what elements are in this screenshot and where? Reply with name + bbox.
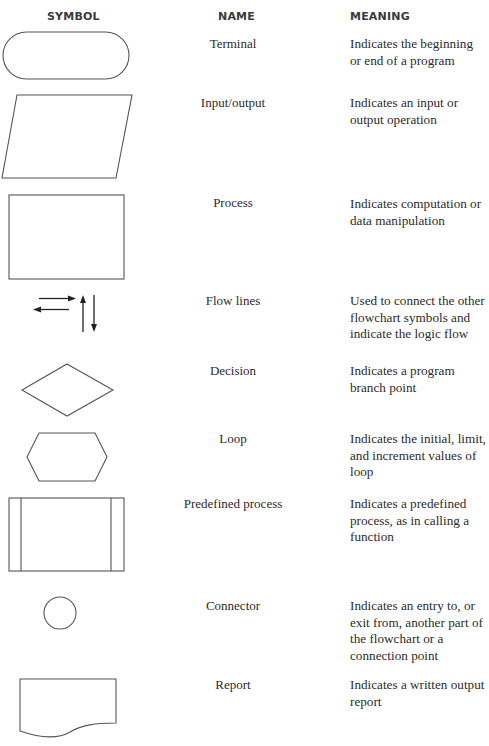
- symbol-meaning: Indicates computation or data manipulati…: [350, 196, 486, 229]
- symbol-meaning: Indicates an input or output operation: [350, 95, 486, 128]
- flow-lines-icon: [33, 295, 97, 332]
- symbol-meaning: Indicates an entry to, or exit from, ano…: [350, 598, 486, 664]
- symbol-name: Report: [143, 677, 323, 693]
- symbol-meaning: Indicates the initial, limit, and increm…: [350, 431, 486, 481]
- symbol-name: Connector: [143, 598, 323, 614]
- symbol-meaning: Indicates the beginning or end of a prog…: [350, 36, 486, 69]
- loop-icon: [27, 433, 107, 481]
- decision-icon: [22, 364, 113, 416]
- symbol-name: Input/output: [143, 95, 323, 111]
- symbol-meaning: Indicates a written output report: [350, 677, 486, 710]
- connector-icon: [44, 597, 76, 629]
- predefined-process-icon: [9, 498, 124, 571]
- symbol-name: Flow lines: [143, 293, 323, 309]
- symbol-meaning: Indicates a predefined process, as in ca…: [350, 496, 486, 546]
- report-icon: [20, 679, 116, 737]
- symbol-name: Predefined process: [143, 496, 323, 512]
- input-output-icon: [2, 95, 132, 178]
- symbol-name: Loop: [143, 431, 323, 447]
- terminal-icon: [3, 32, 129, 79]
- process-icon: [9, 195, 124, 279]
- symbol-name: Terminal: [143, 36, 323, 52]
- symbol-meaning: Used to connect the other flowchart symb…: [350, 293, 486, 343]
- symbol-meaning: Indicates a program branch point: [350, 363, 486, 396]
- symbol-name: Decision: [143, 363, 323, 379]
- symbol-name: Process: [143, 195, 323, 211]
